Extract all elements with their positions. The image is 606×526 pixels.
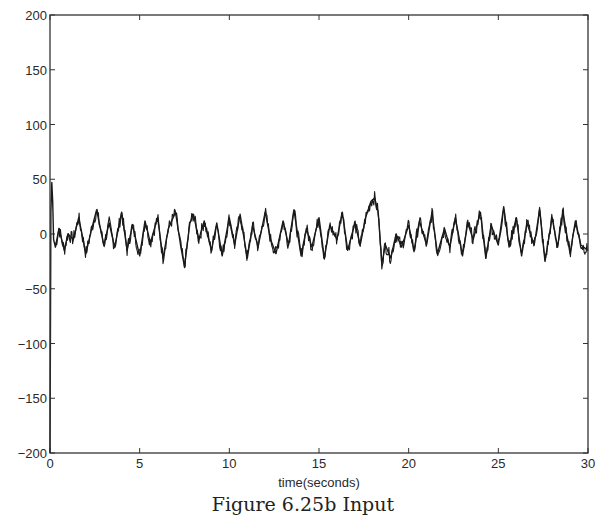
x-tick-label: 10 bbox=[222, 456, 236, 471]
x-tick-label: 30 bbox=[581, 456, 595, 471]
x-tick-label: 25 bbox=[491, 456, 505, 471]
x-tick-label: 5 bbox=[136, 456, 143, 471]
x-axis-label: time(seconds) bbox=[278, 475, 360, 490]
y-tick-label: 200 bbox=[25, 8, 47, 23]
y-tick-label: −100 bbox=[18, 337, 47, 352]
y-tick-label: 100 bbox=[25, 118, 47, 133]
x-tick-label: 15 bbox=[312, 456, 326, 471]
y-tick-label: 50 bbox=[33, 172, 47, 187]
y-tick-label: 150 bbox=[25, 63, 47, 78]
y-tick-label: −50 bbox=[25, 282, 47, 297]
figure-caption: Figure 6.25b Input bbox=[0, 493, 606, 515]
y-axis-ticks: 200150100500−50−100−150−200 bbox=[18, 8, 588, 461]
line-chart: 200150100500−50−100−150−200 051015202530… bbox=[0, 0, 606, 526]
y-tick-label: −200 bbox=[18, 446, 47, 461]
x-tick-label: 20 bbox=[401, 456, 415, 471]
y-tick-label: 0 bbox=[40, 227, 47, 242]
signal-noise-detail bbox=[55, 192, 587, 269]
x-tick-label: 0 bbox=[46, 456, 53, 471]
y-tick-label: −150 bbox=[18, 391, 47, 406]
